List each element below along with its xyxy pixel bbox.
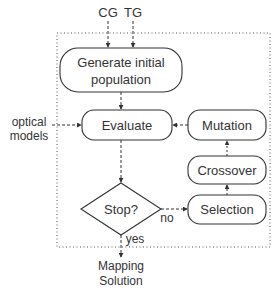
evaluate-node: Evaluate — [82, 110, 172, 140]
yes-label: yes — [126, 232, 145, 246]
crossover-node: Crossover — [188, 156, 266, 184]
selection-node: Selection — [188, 195, 266, 224]
generate-population-node: Generate initial population — [60, 48, 182, 92]
tg-label: TG — [124, 5, 142, 20]
evaluate-label: Evaluate — [102, 118, 153, 133]
mapping-solution-label-line1: Mapping — [98, 259, 144, 273]
mapping-solution-label-line2: Solution — [99, 274, 142, 288]
mutation-label: Mutation — [202, 118, 252, 133]
generate-label-line1: Generate initial — [77, 55, 165, 70]
generate-label-line2: population — [91, 72, 151, 87]
selection-label: Selection — [200, 202, 253, 217]
mutation-node: Mutation — [188, 110, 266, 140]
optical-models-label-line1: optical — [12, 115, 47, 129]
optical-models-label-line2: models — [10, 129, 49, 143]
no-label: no — [160, 211, 174, 225]
stop-label: Stop? — [104, 202, 138, 217]
stop-decision-node: Stop? — [81, 183, 161, 235]
ga-flowchart: CG TG Generate initial population optica… — [0, 0, 275, 290]
cg-label: CG — [98, 5, 118, 20]
crossover-label: Crossover — [197, 163, 257, 178]
